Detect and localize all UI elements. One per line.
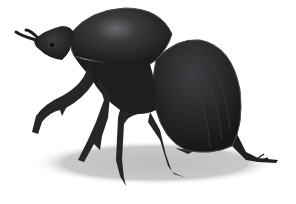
elytra: [153, 40, 241, 152]
beetle-illustration: [0, 0, 296, 204]
antennae: [16, 30, 38, 40]
eye: [49, 42, 55, 48]
beetle-svg: [0, 0, 296, 204]
thorax: [70, 8, 172, 67]
